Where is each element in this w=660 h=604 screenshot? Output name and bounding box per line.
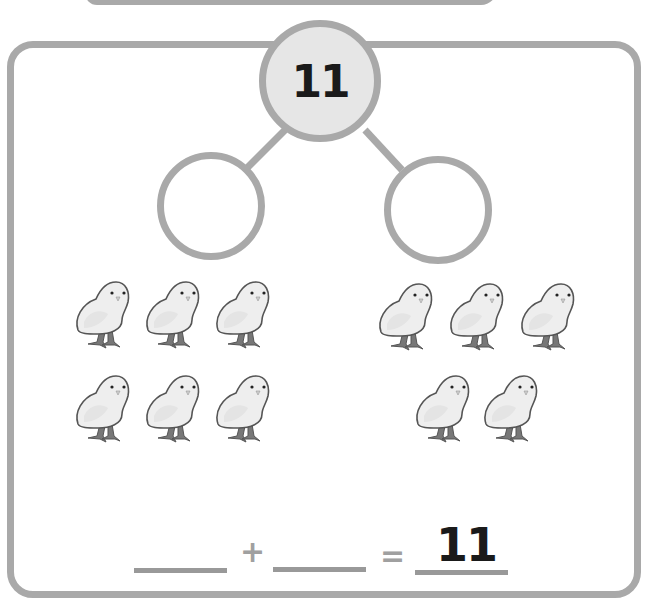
chick-icon <box>410 366 474 446</box>
whole-number: 11 <box>291 56 348 107</box>
chick-icon <box>140 366 204 446</box>
chick-icon <box>140 272 204 352</box>
connector-right <box>365 130 402 170</box>
addend-1-blank[interactable] <box>134 568 227 573</box>
addend-2-blank[interactable] <box>273 567 366 572</box>
chick-icon <box>373 274 437 354</box>
chick-icon <box>70 272 134 352</box>
part-right-circle[interactable] <box>384 156 492 264</box>
chick-icon <box>210 272 274 352</box>
chick-icon <box>210 366 274 446</box>
chick-icon <box>478 366 542 446</box>
part-left-circle[interactable] <box>157 152 265 260</box>
chick-icon <box>515 274 579 354</box>
sum-blank <box>415 570 508 575</box>
chick-icon <box>70 366 134 446</box>
chick-icon <box>444 274 508 354</box>
connector-left <box>245 130 285 170</box>
whole-circle: 11 <box>259 20 381 142</box>
